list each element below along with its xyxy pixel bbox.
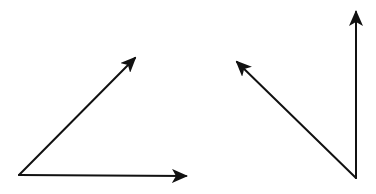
diagonal-up-left-arrow-icon — [237, 62, 356, 178]
vector-diagram — [0, 0, 376, 194]
diagonal-up-right-arrow-icon — [19, 58, 135, 175]
right-angle-figure — [237, 12, 356, 178]
left-angle-figure — [19, 58, 186, 176]
diagram-canvas — [0, 0, 376, 194]
horizontal-right-arrow-icon — [19, 175, 186, 176]
